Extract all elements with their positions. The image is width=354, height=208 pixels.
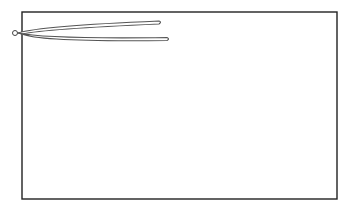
pivot-circle	[13, 31, 18, 36]
tweezers-upper-arm	[18, 21, 161, 34]
tweezers-icon	[13, 21, 169, 41]
diagram-canvas	[0, 0, 354, 208]
tweezers-lower-arm	[18, 33, 169, 41]
